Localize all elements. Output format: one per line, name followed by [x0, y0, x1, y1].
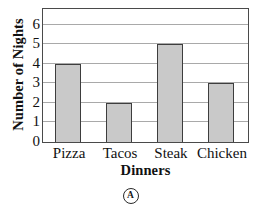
y-tick-label: 3 [26, 75, 40, 90]
gridline [43, 24, 248, 25]
gridline [43, 43, 248, 44]
y-tick-label: 2 [26, 95, 40, 110]
plot-area [43, 9, 248, 142]
y-tick-label: 1 [26, 114, 40, 129]
y-axis-tick-labels: 0123456 [26, 8, 40, 143]
x-tick-label: Chicken [196, 144, 247, 162]
y-tick-label: 6 [26, 17, 40, 32]
x-tick-label: Pizza [44, 144, 95, 162]
y-tick-label: 5 [26, 36, 40, 51]
plot-frame [42, 8, 249, 143]
y-tick-label: 4 [26, 56, 40, 71]
y-tick-label: 0 [26, 134, 40, 149]
bar-steak [157, 44, 183, 142]
answer-choice-marker: A [0, 186, 261, 204]
x-tick-label: Tacos [95, 144, 146, 162]
x-axis-title: Dinners [42, 162, 249, 179]
bar-pizza [55, 64, 81, 142]
x-axis-tick-labels: PizzaTacosSteakChicken [42, 144, 249, 163]
bar-chicken [208, 83, 234, 142]
bar-chart-figure: Number of Nights 0123456 PizzaTacosSteak… [0, 0, 261, 208]
bar-tacos [106, 103, 132, 142]
y-axis-title: Number of Nights [10, 5, 27, 145]
x-tick-label: Steak [146, 144, 197, 162]
answer-choice-letter[interactable]: A [123, 188, 139, 204]
